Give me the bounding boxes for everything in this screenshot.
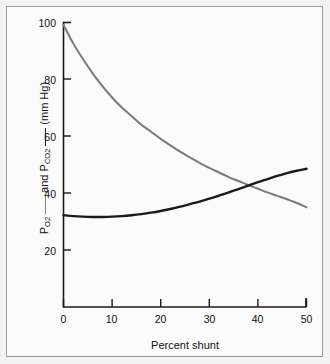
y-axis-title-pco2-p: P (38, 164, 50, 171)
y-axis-title-po2-p: P (38, 227, 50, 234)
x-tick-label-10: 10 (97, 314, 126, 325)
y-axis-title-pco2-sub: CO (43, 153, 52, 164)
figure-container: 20 40 60 80 100 0 10 20 30 40 50 Percent… (0, 0, 330, 364)
y-axis-title-pco2-subnum: 2 (43, 149, 52, 153)
x-axis-title: Percent shunt (63, 340, 307, 351)
x-tick-label-50: 50 (292, 314, 321, 325)
po2-legend-dash-icon (45, 196, 46, 214)
x-tick-label-40: 40 (243, 314, 272, 325)
y-axis-title-units: (mm Hg) (38, 82, 50, 125)
x-tick-label-20: 20 (146, 314, 175, 325)
x-tick-label-0: 0 (49, 314, 78, 325)
y-tick-label-100: 100 (12, 18, 56, 29)
y-axis-title-po2-subnum: 2 (43, 217, 52, 221)
x-tick-marks (64, 299, 307, 307)
po2-curve (64, 25, 307, 207)
x-tick-label-30: 30 (195, 314, 224, 325)
y-axis-title-po2-sub: O (43, 221, 52, 227)
y-axis-title: PO2and PCO2(mm Hg) (39, 33, 51, 283)
y-axis-title-conjunction: and (38, 175, 50, 193)
pco2-legend-dash-icon (45, 128, 46, 146)
